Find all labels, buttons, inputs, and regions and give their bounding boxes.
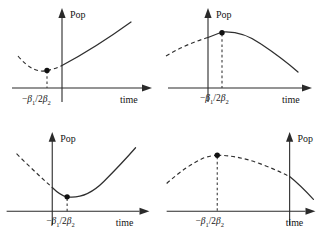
panel-bottom-right: Pop time −β1/2β2	[164, 120, 328, 240]
x-axis-label: time	[282, 94, 300, 105]
curve-solid-segment	[62, 22, 131, 66]
figure-root: Pop time −β1/2β2 Pop time −β1/2β2	[0, 0, 328, 241]
x-axis-arrow-icon	[140, 208, 150, 215]
vertex-label: −β1/2β2	[200, 93, 229, 105]
vertex-dot	[219, 30, 224, 35]
x-axis-label: time	[116, 217, 134, 228]
y-axis-arrow-icon	[49, 132, 56, 142]
curve-dashed-segment	[166, 38, 208, 57]
curve-dashed-segment	[18, 56, 47, 71]
vertex-dot	[215, 153, 220, 158]
curve-dashed-segment	[167, 155, 218, 183]
panel-bottom-left: Pop time −β1/2β2	[0, 120, 164, 240]
vertex-dot	[64, 194, 69, 199]
y-axis-arrow-icon	[204, 8, 211, 18]
y-axis-label: Pop	[60, 133, 75, 144]
vertex-label: −β1/2β2	[195, 216, 223, 227]
curve-dashed-segment	[17, 154, 53, 188]
x-axis-arrow-icon	[306, 208, 316, 215]
y-axis-arrow-icon	[286, 132, 293, 142]
y-axis-label: Pop	[298, 133, 313, 144]
x-axis-label: time	[286, 217, 304, 228]
y-axis-label: Pop	[70, 9, 86, 20]
x-axis-arrow-icon	[142, 84, 152, 91]
x-axis-label: time	[120, 94, 138, 105]
x-axis-arrow-icon	[302, 84, 312, 91]
panel-top-right: Pop time −β1/2β2	[164, 0, 328, 120]
y-axis-arrow-icon	[58, 8, 65, 18]
curve-solid-segment	[290, 177, 314, 200]
curve-dashed-segment-right	[217, 155, 289, 176]
panel-top-left: Pop time −β1/2β2	[0, 0, 164, 120]
vertex-dot	[44, 68, 49, 73]
curve-solid-segment	[52, 148, 135, 197]
vertex-label: −β1/2β2	[46, 216, 74, 227]
y-axis-label: Pop	[216, 9, 232, 20]
vertex-label: −β1/2β2	[22, 94, 51, 106]
